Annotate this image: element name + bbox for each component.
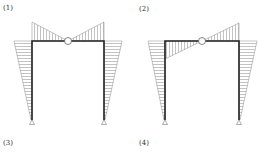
pin-support-icon-1b	[102, 120, 107, 125]
left-column-moment-2	[148, 41, 165, 120]
frame-members-1	[32, 41, 104, 120]
left-column-moment-1	[14, 41, 32, 120]
right-column-moment-1	[104, 41, 122, 120]
beam-moment-right-2	[202, 23, 239, 41]
right-column-moment-2	[239, 41, 257, 120]
pin-support-icon-2b	[237, 120, 242, 125]
pin-support-icon-1a	[30, 120, 35, 125]
hinge-icon-1	[65, 38, 72, 45]
beam-moment-right-1	[68, 22, 104, 41]
hinge-icon-2	[199, 38, 206, 45]
beam-moment-left-2	[165, 41, 202, 59]
frame-2	[148, 23, 257, 125]
frame-1	[14, 22, 122, 125]
beam-moment-left-1	[32, 22, 68, 41]
moment-diagrams	[0, 0, 258, 153]
pin-support-icon-2a	[163, 120, 168, 125]
